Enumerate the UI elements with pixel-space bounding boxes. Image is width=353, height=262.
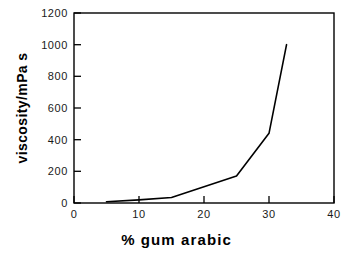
ytick-label-800: 800	[34, 71, 68, 82]
chart-figure: 0 200 400 600 800 1000 1200 0 10 20 30 4…	[0, 0, 353, 262]
plot-frame	[74, 13, 334, 203]
xtick-label-0: 0	[59, 209, 89, 220]
xtick-label-40: 40	[319, 209, 349, 220]
ytick-label-0: 0	[34, 198, 68, 209]
y-axis-title: viscosity/mPa s	[14, 52, 30, 163]
ytick-label-600: 600	[34, 103, 68, 114]
ytick-label-400: 400	[34, 135, 68, 146]
xtick-label-20: 20	[189, 209, 219, 220]
xtick-label-10: 10	[124, 209, 154, 220]
ytick-label-1200: 1200	[28, 8, 68, 19]
x-axis-title: % gum arabic	[0, 231, 353, 248]
ytick-label-200: 200	[34, 166, 68, 177]
ytick-label-1000: 1000	[28, 40, 68, 51]
xtick-label-30: 30	[254, 209, 284, 220]
y-axis-title-wrapper: viscosity/mPa s	[13, 8, 33, 208]
